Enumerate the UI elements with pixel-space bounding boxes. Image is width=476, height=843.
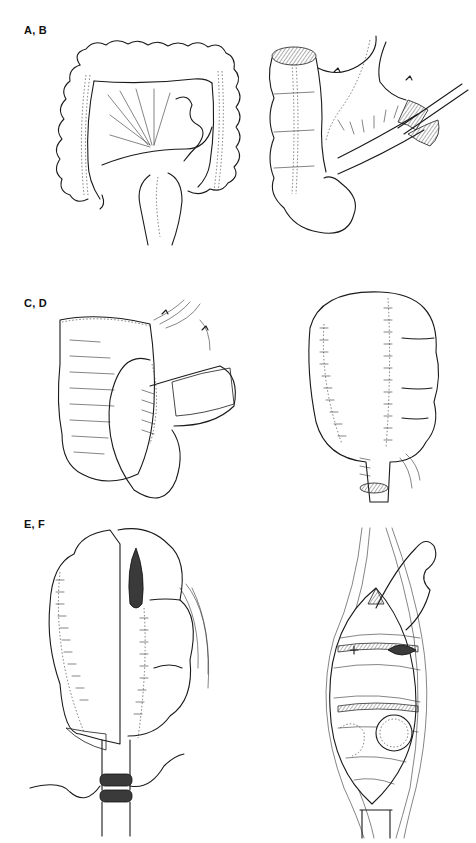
illustration-panel-d <box>290 288 460 508</box>
row-label-ab: A, B <box>24 24 47 36</box>
row-label-cd: C, D <box>24 297 47 309</box>
illustration-panel-b <box>258 40 468 240</box>
illustration-panel-a <box>50 35 250 245</box>
illustration-panel-e <box>30 528 230 838</box>
illustration-panel-c <box>50 300 250 500</box>
illustration-panel-f <box>290 528 460 838</box>
